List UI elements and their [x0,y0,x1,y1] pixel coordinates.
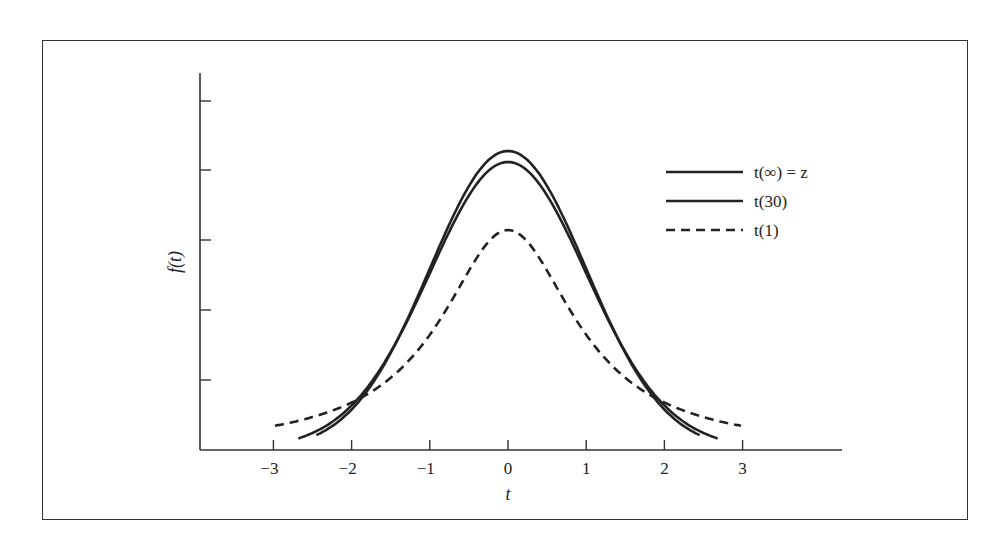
curve-z-normal [316,151,699,435]
x-tick-label: 1 [582,459,591,478]
x-tick-label: −2 [339,459,357,478]
x-tick-label: −1 [417,459,435,478]
legend-label: t(1) [754,221,779,240]
legend-item-t30: t(30) [666,192,787,211]
x-tick-label: 0 [504,459,513,478]
curve-t1 [275,230,741,426]
legend-item-t1: t(1) [666,221,779,240]
x-tick-label: −3 [260,459,278,478]
legend-item-z: t(∞) = z [666,163,808,182]
y-axis-label: f(t) [165,251,186,273]
legend-label: t(∞) = z [754,163,808,182]
x-axis-ticks: −3−2−10123 [260,440,746,478]
x-tick-label: 2 [660,459,669,478]
y-axis-ticks [200,101,211,380]
chart-plot: −3−2−10123 t f(t) t(∞) = z t(30) t(1) [0,0,1003,555]
legend: t(∞) = z t(30) t(1) [666,163,808,240]
legend-label: t(30) [754,192,787,211]
x-tick-label: 3 [738,459,747,478]
x-axis-label: t [505,484,511,504]
